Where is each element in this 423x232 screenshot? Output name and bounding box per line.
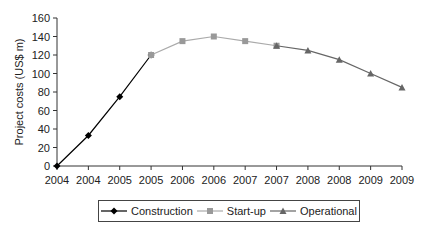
legend-item-construction: Construction — [101, 205, 193, 217]
series-line — [277, 46, 402, 88]
legend-label: Construction — [131, 205, 193, 217]
x-tick-label: 2005 — [107, 174, 131, 186]
data-point — [399, 84, 406, 91]
y-tick-label: 120 — [32, 49, 50, 61]
y-tick-label: 100 — [32, 68, 50, 80]
triangle-marker-icon — [270, 207, 296, 215]
data-point — [242, 38, 248, 44]
y-tick-label: 60 — [38, 105, 50, 117]
chart-legend: Construction Start-up Operational — [98, 200, 360, 222]
x-tick-label: 2006 — [202, 174, 226, 186]
y-tick-label: 140 — [32, 31, 50, 43]
x-tick-label: 2008 — [296, 174, 320, 186]
x-tick-label: 2009 — [390, 174, 414, 186]
x-tick-label: 2007 — [233, 174, 257, 186]
y-axis-label: Project costs (US$ m) — [13, 39, 25, 146]
y-tick-label: 40 — [38, 123, 50, 135]
data-point — [211, 34, 217, 40]
legend-label: Operational — [300, 205, 357, 217]
legend-label: Start-up — [227, 205, 266, 217]
x-tick-label: 2006 — [170, 174, 194, 186]
series-line — [57, 55, 151, 166]
y-tick-label: 80 — [38, 86, 50, 98]
x-tick-label: 2004 — [76, 174, 100, 186]
legend-item-startup: Start-up — [197, 205, 266, 217]
diamond-marker-icon — [101, 207, 127, 215]
data-point — [179, 38, 185, 44]
legend-item-operational: Operational — [270, 205, 357, 217]
x-tick-label: 2009 — [358, 174, 382, 186]
data-point — [367, 70, 374, 77]
data-point — [148, 52, 154, 58]
x-tick-label: 2008 — [327, 174, 351, 186]
square-marker-icon — [197, 207, 223, 215]
x-tick-label: 2007 — [264, 174, 288, 186]
line-chart: 0204060801001201401602004200420052005200… — [0, 0, 423, 200]
x-tick-label: 2005 — [139, 174, 163, 186]
y-tick-label: 20 — [38, 142, 50, 154]
x-tick-label: 2004 — [45, 174, 69, 186]
y-tick-label: 160 — [32, 12, 50, 24]
y-tick-label: 0 — [44, 160, 50, 172]
